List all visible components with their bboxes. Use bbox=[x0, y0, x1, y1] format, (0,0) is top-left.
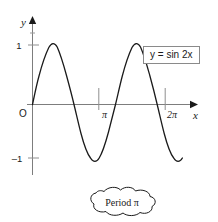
cloud-callout-label: Period π bbox=[105, 197, 139, 208]
x-axis-label: x bbox=[192, 109, 198, 121]
equation-label-box: y = sin 2x bbox=[143, 46, 200, 64]
y-axis-label: y bbox=[20, 16, 26, 28]
y-tick-label-1: 1 bbox=[16, 40, 21, 51]
equation-label-text: y = sin 2x bbox=[150, 49, 193, 60]
x-axis-arrowhead bbox=[190, 101, 198, 108]
sine-graph-figure: y x O 1 –1 π 2π Period π y = sin 2x bbox=[0, 0, 218, 222]
y-tick-label-minus-1: –1 bbox=[12, 153, 23, 164]
y-axis-arrowhead bbox=[29, 16, 36, 24]
plot-canvas: y x O 1 –1 π 2π Period π bbox=[0, 0, 218, 222]
x-tick-label-pi: π bbox=[102, 109, 108, 120]
origin-label: O bbox=[19, 108, 27, 119]
x-tick-label-2pi: 2π bbox=[167, 109, 178, 120]
